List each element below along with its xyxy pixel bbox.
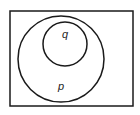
set-q-label: q [62,28,69,40]
universe-rectangle [10,11,133,106]
venn-diagram: q p [0,0,140,115]
set-p-label: p [57,80,64,92]
